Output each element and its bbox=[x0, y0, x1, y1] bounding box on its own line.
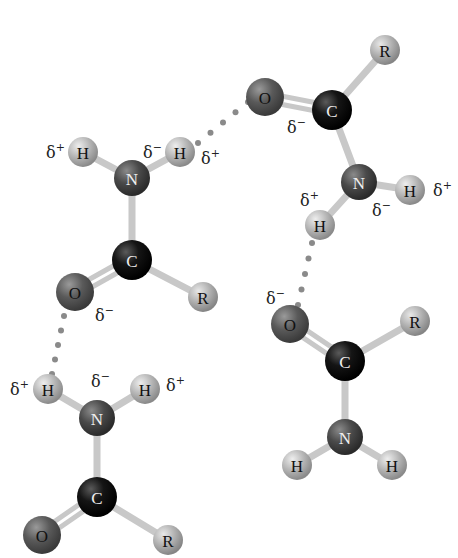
hydrogen-bond-dot bbox=[195, 140, 201, 146]
atom-n: N bbox=[327, 419, 363, 455]
atom-label: C bbox=[326, 102, 337, 121]
atom-label: H bbox=[139, 381, 151, 400]
atom-h: H bbox=[395, 175, 425, 205]
hydrogen-bond-dot bbox=[302, 271, 308, 277]
atom-n: N bbox=[114, 160, 150, 196]
atom-h: H bbox=[377, 450, 407, 480]
atom-label: H bbox=[77, 144, 89, 163]
atom-h: H bbox=[282, 450, 312, 480]
partial-positive-charge: δ+ bbox=[10, 378, 29, 399]
atom-h: H bbox=[130, 374, 160, 404]
atom-label: H bbox=[404, 182, 416, 201]
hydrogen-bond-dot bbox=[208, 130, 214, 136]
atom-label: O bbox=[284, 316, 296, 335]
atom-label: O bbox=[36, 527, 48, 546]
atoms: HHNCOROCRNHHHHNCOROCRNHH bbox=[23, 35, 430, 555]
atom-label: C bbox=[126, 252, 137, 271]
atom-h: H bbox=[305, 210, 335, 240]
atom-label: N bbox=[353, 174, 365, 193]
atom-h: H bbox=[33, 374, 63, 404]
atom-o: O bbox=[271, 305, 309, 343]
hydrogen-bond-dot bbox=[61, 313, 67, 319]
atom-label: C bbox=[339, 353, 350, 372]
partial-negative-charge: δ− bbox=[143, 141, 162, 162]
atom-r: R bbox=[400, 306, 430, 336]
atom-label: N bbox=[339, 429, 351, 448]
atom-label: R bbox=[197, 289, 209, 308]
hydrogen-bond-dot bbox=[220, 120, 226, 126]
atom-o: O bbox=[246, 78, 284, 116]
atom-label: C bbox=[91, 489, 102, 508]
partial-negative-charge: δ− bbox=[91, 370, 110, 391]
atom-c: C bbox=[312, 90, 352, 130]
atom-label: N bbox=[126, 170, 138, 189]
partial-negative-charge: δ− bbox=[287, 116, 306, 137]
atom-n: N bbox=[79, 400, 115, 436]
hydrogen-bond-dot bbox=[52, 357, 58, 363]
atom-n: N bbox=[341, 164, 377, 200]
atom-label: O bbox=[69, 284, 81, 303]
atom-c: C bbox=[77, 477, 117, 517]
atom-label: H bbox=[386, 457, 398, 476]
atom-h: H bbox=[68, 137, 98, 167]
atom-label: H bbox=[314, 217, 326, 236]
partial-positive-charge: δ+ bbox=[201, 147, 220, 168]
partial-positive-charge: δ+ bbox=[46, 141, 65, 162]
atom-r: R bbox=[370, 35, 400, 65]
atom-label: H bbox=[42, 381, 54, 400]
hydrogen-bond-dot bbox=[233, 109, 239, 115]
hydrogen-bond-dot bbox=[299, 287, 305, 293]
hydrogen-bond-dot bbox=[55, 342, 61, 348]
hydrogen-bond-dot bbox=[306, 256, 312, 262]
partial-positive-charge: δ+ bbox=[166, 374, 185, 395]
partial-positive-charge: δ+ bbox=[433, 179, 452, 200]
atom-c: C bbox=[325, 341, 365, 381]
partial-negative-charge: δ− bbox=[266, 287, 285, 308]
atom-label: H bbox=[291, 457, 303, 476]
hydrogen-bond-dot bbox=[58, 328, 64, 334]
atom-r: R bbox=[188, 282, 218, 312]
atom-label: R bbox=[409, 313, 421, 332]
atom-o: O bbox=[23, 516, 61, 554]
partial-positive-charge: δ+ bbox=[300, 189, 319, 210]
amide-hydrogen-bonding-diagram: HHNCOROCRNHHHHNCOROCRNHH δ+δ−δ+δ−δ−δ+δ−δ… bbox=[0, 0, 458, 558]
covalent-bonds bbox=[40, 50, 415, 540]
partial-negative-charge: δ− bbox=[95, 304, 114, 325]
atom-c: C bbox=[112, 240, 152, 280]
atom-h: H bbox=[165, 137, 195, 167]
atom-o: O bbox=[56, 273, 94, 311]
atom-label: H bbox=[174, 144, 186, 163]
atom-label: R bbox=[162, 532, 174, 551]
partial-negative-charge: δ− bbox=[372, 199, 391, 220]
atom-label: O bbox=[259, 89, 271, 108]
atom-label: N bbox=[91, 410, 103, 429]
atom-r: R bbox=[153, 525, 183, 555]
hydrogen-bond-dot bbox=[309, 240, 315, 246]
atom-label: R bbox=[379, 42, 391, 61]
